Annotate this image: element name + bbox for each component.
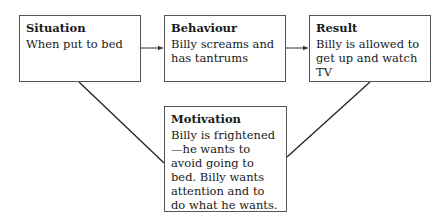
line-situation-to-motivation <box>79 82 164 163</box>
situation-title: Situation <box>26 21 134 35</box>
situation-box: Situation When put to bed <box>19 15 141 82</box>
line-result-to-motivation <box>287 82 370 157</box>
situation-text: When put to bed <box>26 37 134 51</box>
behaviour-text: Billy screams and has tantrums <box>171 37 279 65</box>
behaviour-title: Behaviour <box>171 21 279 35</box>
behaviour-box: Behaviour Billy screams and has tantrums <box>164 15 286 82</box>
result-text: Billy is allowed to get up and watch TV <box>316 37 424 79</box>
motivation-title: Motivation <box>171 112 280 126</box>
result-box: Result Billy is allowed to get up and wa… <box>309 15 431 82</box>
result-title: Result <box>316 21 424 35</box>
motivation-text: Billy is frightened—he wants to avoid go… <box>171 128 280 212</box>
motivation-box: Motivation Billy is frightened—he wants … <box>164 106 287 212</box>
